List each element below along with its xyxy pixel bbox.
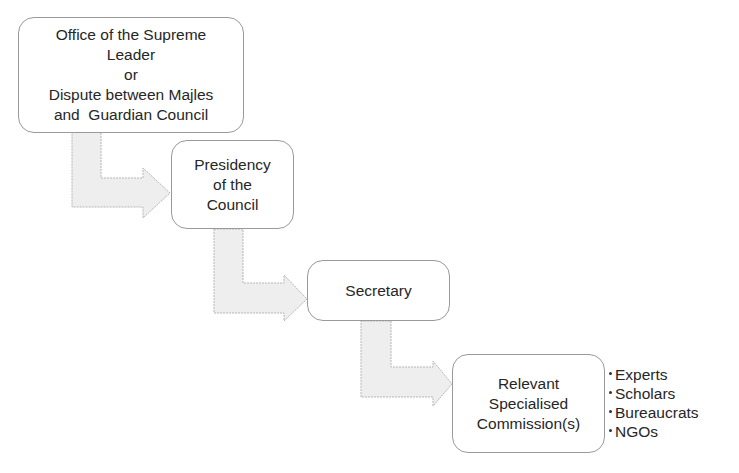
- bullet-icon: [609, 429, 612, 432]
- member-label: Experts: [615, 366, 668, 383]
- node-label-line: Council: [207, 195, 259, 215]
- member-label: Scholars: [615, 385, 675, 402]
- commission-members-list: Experts Scholars Bureaucrats NGOs: [609, 365, 699, 441]
- node-label-line: Secretary: [345, 281, 411, 301]
- member-label: NGOs: [615, 423, 658, 440]
- node-label-line: of the: [213, 175, 252, 195]
- member-label: Bureaucrats: [615, 404, 699, 421]
- list-item: Experts: [609, 365, 699, 384]
- list-item: Bureaucrats: [609, 403, 699, 422]
- bullet-icon: [609, 410, 612, 413]
- node-label-line: Dispute between Majles: [49, 85, 214, 105]
- node-label-line: Office of the Supreme: [56, 25, 207, 45]
- node-label-line: Presidency: [194, 155, 271, 175]
- diagram-canvas: Office of the Supreme Leader or Dispute …: [0, 0, 739, 473]
- node-secretary: Secretary: [307, 260, 450, 321]
- node-label-line: Specialised: [489, 394, 568, 414]
- node-label-line: Relevant: [498, 374, 559, 394]
- bullet-icon: [609, 372, 612, 375]
- list-item: Scholars: [609, 384, 699, 403]
- node-commissions: Relevant Specialised Commission(s): [452, 354, 605, 453]
- arrow-3-icon: [361, 321, 452, 406]
- list-item: NGOs: [609, 422, 699, 441]
- bullet-icon: [609, 391, 612, 394]
- node-presidency: Presidency of the Council: [171, 140, 294, 229]
- arrow-2-icon: [214, 229, 307, 321]
- node-label-line: and Guardian Council: [54, 105, 208, 125]
- arrow-1-icon: [72, 132, 170, 218]
- node-label-line: or: [124, 65, 138, 85]
- node-label-line: Leader: [107, 45, 155, 65]
- node-office-supreme-leader: Office of the Supreme Leader or Dispute …: [18, 17, 244, 133]
- node-label-line: Commission(s): [477, 414, 580, 434]
